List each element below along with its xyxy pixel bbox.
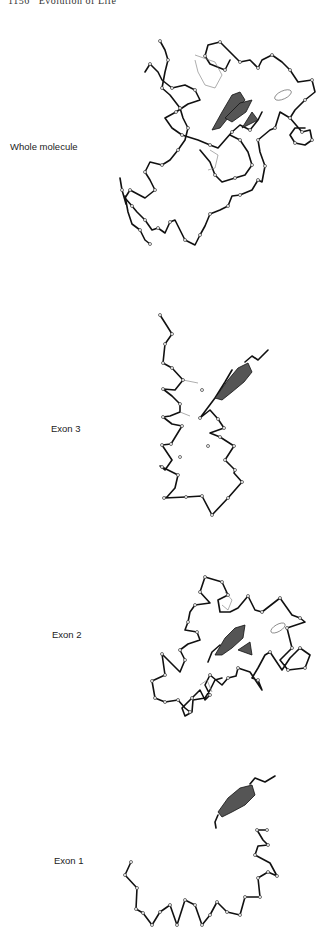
exon-2-structure xyxy=(0,550,332,750)
whole-molecule-structure xyxy=(0,0,332,260)
residue-nodes xyxy=(121,40,314,246)
exon-3-structure xyxy=(0,300,332,530)
residue-nodes xyxy=(124,829,279,927)
exon-1-structure xyxy=(0,760,332,945)
